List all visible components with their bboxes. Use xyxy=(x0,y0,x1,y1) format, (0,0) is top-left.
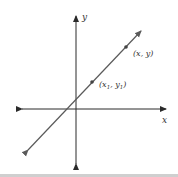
point-x1-y1-label: (x1, y1) xyxy=(99,80,126,90)
y-axis-label: y xyxy=(81,12,88,22)
point-x1-y1-dot xyxy=(90,80,94,84)
coordinate-diagram: y x (x, y) (x1, y1) xyxy=(0,0,178,177)
x-axis-label: x xyxy=(162,115,167,125)
line-through-points xyxy=(28,31,141,150)
bottom-divider xyxy=(0,174,178,177)
point-x-y-label: (x, y) xyxy=(133,49,153,58)
point-x-y-dot xyxy=(124,45,128,49)
